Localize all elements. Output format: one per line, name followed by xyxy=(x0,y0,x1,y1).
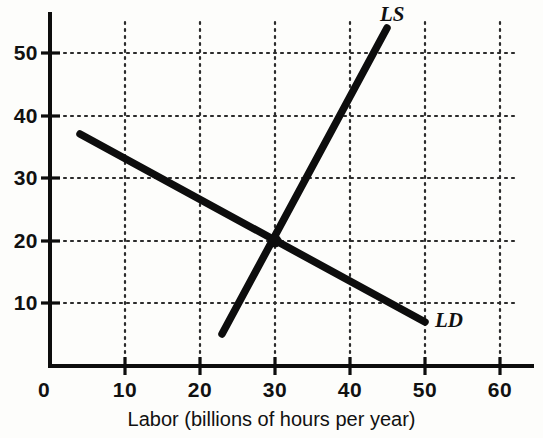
labor-demand-curve xyxy=(80,134,425,322)
labor-demand-curve-label: LD xyxy=(435,308,463,333)
horizontal-gridlines xyxy=(50,53,516,303)
y-tick-label-20: 20 xyxy=(6,229,38,253)
x-tick-label-50: 50 xyxy=(413,378,437,402)
y-tick-label-50: 50 xyxy=(6,41,38,65)
x-tick-label-0: 0 xyxy=(38,378,50,402)
equilibrium-point-marker xyxy=(269,235,282,248)
x-tick-label-30: 30 xyxy=(263,378,287,402)
labor-supply-curve-label: LS xyxy=(380,2,405,27)
y-tick-label-10: 10 xyxy=(6,291,38,315)
x-tick-label-40: 40 xyxy=(338,378,362,402)
chart-canvas xyxy=(0,0,543,438)
x-tick-label-20: 20 xyxy=(188,378,212,402)
x-axis-title: Labor (billions of hours per year) xyxy=(0,408,543,431)
y-tick-label-30: 30 xyxy=(6,166,38,190)
y-tick-label-40: 40 xyxy=(6,104,38,128)
x-tick-label-10: 10 xyxy=(113,378,137,402)
labor-market-chart: 50 40 30 20 10 0 10 20 30 40 50 60 LS LD… xyxy=(0,0,543,438)
x-tick-label-60: 60 xyxy=(488,378,512,402)
